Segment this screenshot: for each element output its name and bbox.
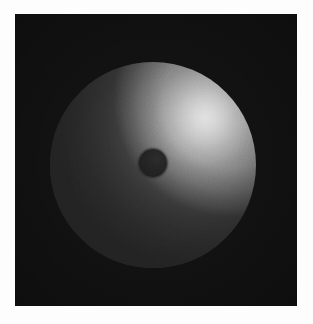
center-hole	[139, 149, 167, 177]
figure-root	[0, 0, 313, 324]
render-panel	[15, 14, 297, 306]
